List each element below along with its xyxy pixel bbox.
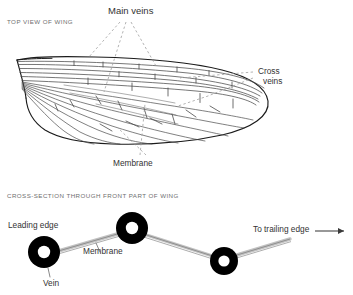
vein-label: Vein	[43, 279, 59, 289]
vein-cross-section	[210, 247, 238, 275]
leading-edge-label: Leading edge	[8, 221, 58, 231]
membrane-label-top-view: Membrane	[113, 159, 153, 169]
to-trailing-edge-label: To trailing edge	[253, 225, 309, 235]
wing-anatomy-diagram: TOP VIEW OF WING Main veins Cross veins …	[0, 0, 353, 295]
cross-section-illustration	[0, 0, 353, 295]
vein-cross-section	[116, 212, 148, 244]
cross-veins-label-line1: Cross	[258, 66, 282, 76]
top-view-caption: TOP VIEW OF WING	[7, 18, 73, 25]
cross-section-caption: CROSS-SECTION THROUGH FRONT PART OF WING	[7, 192, 179, 199]
vein-cross-section	[28, 236, 60, 268]
membrane-label-cross-section: Membrane	[83, 247, 123, 257]
cross-veins-label-line2: veins	[263, 76, 282, 86]
main-veins-label: Main veins	[108, 6, 153, 17]
cross-veins-label: Cross veins	[258, 66, 282, 87]
right-arrow-icon	[315, 228, 344, 234]
vein-cross-sections-group	[28, 212, 238, 275]
